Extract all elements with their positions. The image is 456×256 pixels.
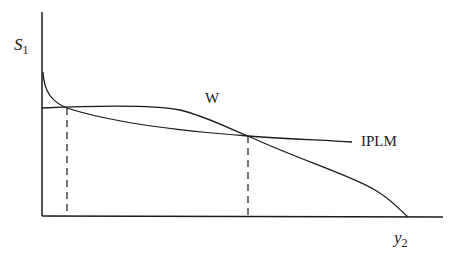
curve-w-label: W [205,90,220,106]
x-axis [42,216,443,217]
curve-w [42,106,408,217]
curve-iplm-label: IPLM [361,133,397,149]
diagram-canvas: S1 y2 W IPLM [0,0,456,256]
x-axis-label: y2 [392,228,408,250]
y-axis-label: S1 [14,35,29,57]
